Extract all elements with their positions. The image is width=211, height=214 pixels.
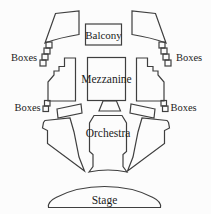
box-seat (163, 106, 169, 112)
theater-seating-diagram: Balcony Boxes Boxes Mezzanine Boxes Boxe… (0, 0, 211, 214)
box-seat (163, 54, 169, 60)
box-seat (40, 60, 46, 66)
orchestra-right-front-bar (130, 104, 155, 118)
seating-map-canvas: Balcony Boxes Boxes Mezzanine Boxes Boxe… (0, 0, 211, 214)
balcony-right-wing (132, 11, 166, 43)
orchestra-right-section (128, 118, 170, 171)
box-seat (42, 54, 48, 60)
boxes-lower-right-label: Boxes (170, 102, 196, 113)
mezzanine-left-section (48, 58, 76, 101)
boxes-upper-right-label: Boxes (176, 52, 202, 63)
boxes-upper-left-label: Boxes (11, 52, 37, 63)
box-seat (43, 106, 49, 112)
box-seat (165, 60, 171, 66)
balcony-left-wing (45, 11, 79, 43)
orchestra-label: Orchestra (86, 127, 131, 139)
orchestra-left-section (43, 118, 85, 171)
orchestra-front-center-section (99, 101, 121, 111)
box-seat (161, 48, 167, 54)
mezzanine-label: Mezzanine (81, 73, 131, 85)
mezzanine-right-section (137, 58, 165, 101)
balcony-label: Balcony (85, 29, 122, 41)
box-seat (44, 48, 50, 54)
stage-label: Stage (92, 194, 118, 207)
boxes-lower-left-label: Boxes (14, 102, 40, 113)
orchestra-left-front-bar (57, 104, 82, 118)
lower-left-box-pair (43, 101, 50, 112)
seating-labels: Balcony Boxes Boxes Mezzanine Boxes Boxe… (11, 29, 202, 208)
orchestra-section (89, 116, 127, 173)
lower-right-box-pair (161, 101, 168, 112)
upper-right-box-stack (159, 42, 171, 66)
upper-left-box-stack (40, 42, 52, 66)
